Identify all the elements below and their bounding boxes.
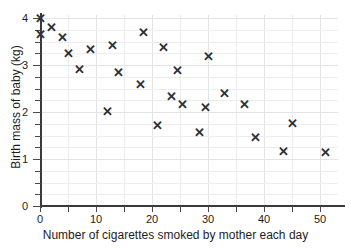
y-axis-tick-label: 3: [14, 60, 28, 71]
y-axis-tick: [35, 89, 41, 90]
data-point: ✕: [166, 90, 177, 103]
gridline-horizontal: [40, 147, 338, 148]
gridline-horizontal: [40, 136, 338, 137]
gridline-vertical: [96, 15, 97, 206]
x-axis-tick: [320, 206, 321, 212]
gridline-horizontal: [40, 112, 338, 113]
x-axis-tick-label: 40: [249, 214, 279, 225]
x-axis-title: Number of cigarettes smoked by mother ea…: [0, 228, 351, 242]
data-point: ✕: [320, 146, 331, 159]
data-point: ✕: [63, 47, 74, 60]
data-point: ✕: [57, 30, 68, 43]
data-point: ✕: [46, 21, 57, 34]
y-axis-tick: [35, 124, 41, 125]
gridline-vertical: [68, 15, 69, 206]
x-axis-tick: [68, 206, 69, 212]
y-axis-tick-label: 4: [14, 13, 28, 24]
x-axis-tick-label: 0: [25, 214, 55, 225]
y-axis-tick-label: 1: [14, 154, 28, 165]
data-point: ✕: [85, 42, 96, 55]
gridline-horizontal: [40, 30, 338, 31]
gridline-horizontal: [40, 100, 338, 101]
x-axis-tick: [264, 206, 265, 212]
data-point: ✕: [200, 101, 211, 114]
data-point: ✕: [102, 105, 113, 118]
x-axis-tick-label: 50: [305, 214, 335, 225]
y-axis-tick: [35, 136, 41, 137]
data-point: ✕: [203, 49, 214, 62]
x-axis-tick: [40, 206, 41, 212]
y-axis-tick: [35, 53, 41, 54]
y-axis-tick: [33, 65, 41, 66]
data-point: ✕: [172, 63, 183, 76]
data-point: ✕: [152, 118, 163, 131]
gridline-vertical: [152, 15, 153, 206]
y-axis-tick: [35, 100, 41, 101]
y-axis-tick-label: 2: [14, 107, 28, 118]
x-axis-tick: [124, 206, 125, 212]
x-axis-tick: [208, 206, 209, 212]
data-point: ✕: [239, 97, 250, 110]
y-axis-tick: [35, 171, 41, 172]
data-point: ✕: [35, 12, 46, 25]
gridline-horizontal: [40, 18, 338, 19]
data-point: ✕: [194, 125, 205, 138]
y-axis-tick: [33, 112, 41, 113]
x-axis-tick: [236, 206, 237, 212]
data-point: ✕: [287, 117, 298, 130]
data-point: ✕: [138, 26, 149, 39]
gridline-vertical: [320, 15, 321, 206]
gridline-horizontal: [40, 171, 338, 172]
gridline-vertical: [236, 15, 237, 206]
x-axis-line: [40, 205, 345, 207]
gridline-vertical: [292, 15, 293, 206]
x-axis-tick-label: 20: [137, 214, 167, 225]
y-axis-tick: [35, 183, 41, 184]
gridline-vertical: [264, 15, 265, 206]
y-axis-tick: [35, 147, 41, 148]
gridline-horizontal: [40, 159, 338, 160]
gridline-horizontal: [40, 77, 338, 78]
x-axis-tick-label: 30: [193, 214, 223, 225]
data-point: ✕: [177, 98, 188, 111]
gridline-horizontal: [40, 194, 338, 195]
x-axis-tick-label: 10: [81, 214, 111, 225]
data-point: ✕: [113, 66, 124, 79]
data-point: ✕: [135, 77, 146, 90]
scatter-chart: Birth mass of baby (kg) Number of cigare…: [0, 0, 351, 249]
gridline-horizontal: [40, 89, 338, 90]
gridline-horizontal: [40, 183, 338, 184]
x-axis-tick: [96, 206, 97, 212]
data-point: ✕: [278, 145, 289, 158]
x-axis-tick: [152, 206, 153, 212]
x-axis-tick: [292, 206, 293, 212]
data-point: ✕: [250, 130, 261, 143]
x-axis-tick: [180, 206, 181, 212]
y-axis-tick: [33, 159, 41, 160]
data-point: ✕: [74, 62, 85, 75]
data-point: ✕: [219, 87, 230, 100]
y-axis-tick: [35, 194, 41, 195]
data-point: ✕: [107, 38, 118, 51]
gridline-horizontal: [40, 65, 338, 66]
data-point: ✕: [158, 41, 169, 54]
gridline-vertical: [124, 15, 125, 206]
y-axis-tick: [35, 77, 41, 78]
y-axis-tick-label: 0: [14, 201, 28, 212]
data-point: ✕: [35, 28, 46, 41]
